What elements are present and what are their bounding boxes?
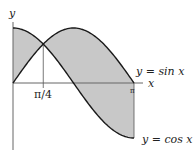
- area-between-curves-figure: y x π/4 π y = sin x y = cos x: [0, 0, 196, 154]
- y-axis-label: y: [8, 7, 16, 20]
- sin-curve-label: y = sin x: [135, 65, 185, 78]
- tick-label-pi-over-4: π/4: [34, 88, 52, 101]
- cos-curve-label: y = cos x: [141, 133, 193, 146]
- tick-label-pi: π: [130, 87, 135, 95]
- x-axis-label: x: [148, 77, 155, 90]
